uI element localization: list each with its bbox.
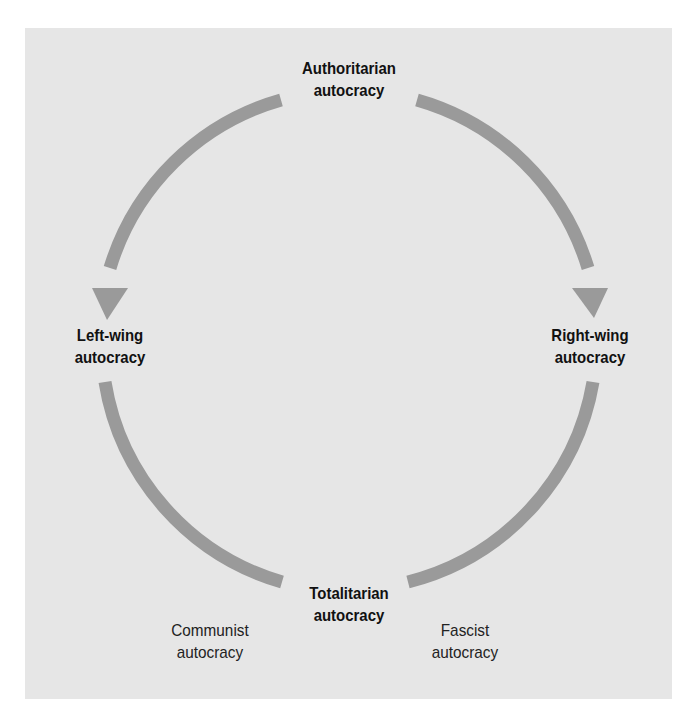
arc-bottom-right <box>408 382 593 582</box>
node-totalitarian: Totalitarian autocracy <box>283 583 415 627</box>
node-left-wing-line2: autocracy <box>57 347 163 369</box>
arrowhead-right-icon <box>572 288 608 318</box>
arc-top-left <box>110 100 281 268</box>
node-totalitarian-line2: autocracy <box>283 605 415 627</box>
node-authoritarian: Authoritarian autocracy <box>283 58 415 102</box>
sublabel-communist-line1: Communist <box>161 620 260 642</box>
arc-top-right <box>417 100 588 268</box>
sublabel-fascist-line2: autocracy <box>416 642 515 664</box>
arc-bottom-left <box>105 382 282 582</box>
node-authoritarian-line2: autocracy <box>283 80 415 102</box>
sublabel-communist: Communist autocracy <box>161 620 260 664</box>
arrowhead-left-icon <box>92 288 128 320</box>
node-left-wing: Left-wing autocracy <box>57 325 163 369</box>
sublabel-fascist-line1: Fascist <box>416 620 515 642</box>
node-right-wing: Right-wing autocracy <box>528 325 651 369</box>
node-left-wing-line1: Left-wing <box>57 325 163 347</box>
sublabel-communist-line2: autocracy <box>161 642 260 664</box>
node-right-wing-line1: Right-wing <box>528 325 651 347</box>
sublabel-fascist: Fascist autocracy <box>416 620 515 664</box>
node-right-wing-line2: autocracy <box>528 347 651 369</box>
node-totalitarian-line1: Totalitarian <box>283 583 415 605</box>
node-authoritarian-line1: Authoritarian <box>283 58 415 80</box>
